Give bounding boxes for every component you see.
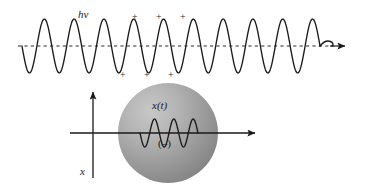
wave-tail-curve xyxy=(320,41,333,46)
diagram-canvas xyxy=(0,0,372,192)
positive-charge-top-2: + xyxy=(156,12,162,22)
positive-charge-bottom-2: + xyxy=(144,70,150,80)
positive-charge-bottom-3: + xyxy=(168,70,174,80)
light-wave-curve xyxy=(22,19,320,73)
positive-charge-top-3: + xyxy=(180,12,186,22)
vertical-axis-label: x xyxy=(80,166,85,177)
physics-diagram: hν + + + + + + x(t) (–) x xyxy=(0,0,372,192)
positive-charge-bottom-1: + xyxy=(120,70,126,80)
photon-energy-label: hν xyxy=(78,9,88,20)
positive-charge-top-1: + xyxy=(132,12,138,22)
displacement-label: x(t) xyxy=(152,100,167,111)
negative-charge-label: (–) xyxy=(158,138,171,149)
